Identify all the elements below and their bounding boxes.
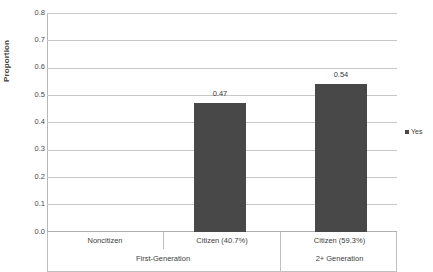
y-tick-label: 0.5: [19, 91, 45, 99]
category-label-citizen-second-generation: Citizen (59.3%): [287, 236, 392, 246]
group-label-second-generation: 2+ Generation: [287, 254, 392, 264]
group-tick-separator: [280, 232, 281, 272]
category-label-noncitizen: Noncitizen: [63, 236, 147, 246]
bar-citizen-first-generation[interactable]: [194, 103, 246, 232]
y-tick-label: 0.0: [19, 228, 45, 236]
axis-border-right: [396, 232, 397, 272]
y-tick-label: 0.4: [19, 118, 45, 126]
legend-swatch-icon: [405, 130, 409, 134]
y-axis-title: Proportion: [2, 16, 16, 106]
legend: Yes: [405, 128, 422, 136]
group-label-first-generation: First-Generation: [105, 254, 221, 264]
y-tick-label: 0.6: [19, 63, 45, 71]
category-tick-separator: [163, 232, 164, 249]
y-tick-label: 0.7: [19, 36, 45, 44]
bar-citizen-second-generation[interactable]: [315, 84, 367, 232]
legend-label-yes: Yes: [411, 128, 422, 136]
category-axis: Noncitizen Citizen (40.7%) Citizen (59.3…: [47, 232, 397, 272]
y-tick-label: 0.8: [19, 9, 45, 17]
bar-value-label-citizen-first-generation: 0.47: [184, 89, 256, 98]
y-tick-label: 0.3: [19, 145, 45, 153]
y-tick-label: 0.2: [19, 173, 45, 181]
bar-value-label-citizen-second-generation: 0.54: [305, 70, 377, 79]
axis-border-left: [47, 232, 48, 272]
gridline: [47, 68, 397, 69]
y-tick-label: 0.1: [19, 200, 45, 208]
category-label-citizen-first-generation: Citizen (40.7%): [178, 236, 266, 246]
gridline: [47, 40, 397, 41]
plot-area: 0.47 0.54: [47, 13, 397, 232]
gridline: [47, 13, 397, 14]
bar-chart: Proportion 0.8 0.7 0.6 0.5 0.4 0.3 0.2 0…: [0, 0, 433, 272]
y-axis-tick-labels: 0.8 0.7 0.6 0.5 0.4 0.3 0.2 0.1 0.0: [17, 0, 45, 272]
